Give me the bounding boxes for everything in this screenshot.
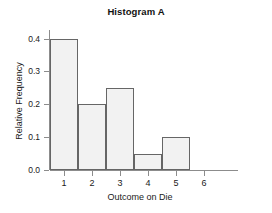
y-tick-mark	[44, 137, 49, 138]
histogram-bar	[50, 39, 78, 170]
x-tick-label: 6	[194, 178, 214, 188]
y-tick-mark	[44, 39, 49, 40]
y-axis-label: Relative Frequency	[14, 36, 24, 166]
x-tick-mark	[204, 171, 205, 176]
y-tick-mark	[44, 104, 49, 105]
y-tick-label: 0.0	[18, 165, 40, 175]
x-tick-mark	[148, 171, 149, 176]
histogram-bar	[78, 104, 106, 170]
histogram-figure: Histogram A 0.00.10.20.30.4 123456 Outco…	[0, 0, 272, 213]
plot-area	[50, 32, 218, 170]
x-tick-label: 4	[138, 178, 158, 188]
x-tick-mark	[176, 171, 177, 176]
x-tick-label: 3	[110, 178, 130, 188]
histogram-bar	[162, 137, 190, 170]
x-axis-label: Outcome on Die	[40, 192, 240, 202]
histogram-bar	[134, 154, 162, 170]
x-tick-label: 5	[166, 178, 186, 188]
chart-title: Histogram A	[0, 6, 272, 17]
x-axis-spine	[50, 170, 238, 171]
x-tick-mark	[92, 171, 93, 176]
x-tick-mark	[120, 171, 121, 176]
y-tick-mark	[44, 170, 49, 171]
x-tick-mark	[64, 171, 65, 176]
y-tick-mark	[44, 71, 49, 72]
x-tick-label: 2	[82, 178, 102, 188]
x-tick-label: 1	[54, 178, 74, 188]
histogram-bar	[106, 88, 134, 170]
